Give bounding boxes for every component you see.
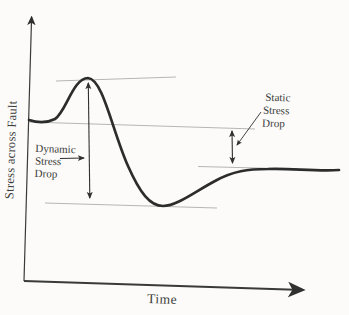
static-label-line-1: Static — [265, 91, 290, 104]
static-stress-drop-label: Static Stress Drop — [262, 91, 291, 130]
diagram-canvas: Stress across Fault Time Dynamic Stress … — [0, 0, 349, 315]
static-stress-drop-arrow — [232, 131, 233, 163]
initial-stress-reference-line — [29, 122, 255, 129]
dynamic-label-line-2: Stress — [35, 155, 62, 168]
dynamic-stress-drop-label: Dynamic Stress Drop — [35, 142, 76, 180]
y-axis-label: Stress across Fault — [2, 100, 19, 199]
dynamic-label-pointer-arrow — [60, 158, 84, 159]
static-label-line-3: Drop — [262, 117, 285, 130]
dynamic-label-line-3: Drop — [35, 167, 58, 180]
dynamic-stress-drop-arrow — [88, 83, 90, 198]
y-axis — [24, 17, 32, 281]
stress-curve — [29, 78, 339, 206]
static-label-line-2: Stress — [263, 104, 290, 117]
dynamic-label-line-1: Dynamic — [35, 142, 76, 155]
x-axis — [24, 281, 303, 290]
peak-stress-reference-line — [56, 77, 176, 81]
stress-time-figure: Stress across Fault Time Dynamic Stress … — [0, 0, 349, 315]
x-axis-label: Time — [147, 291, 178, 307]
trough-stress-reference-line — [45, 203, 217, 208]
